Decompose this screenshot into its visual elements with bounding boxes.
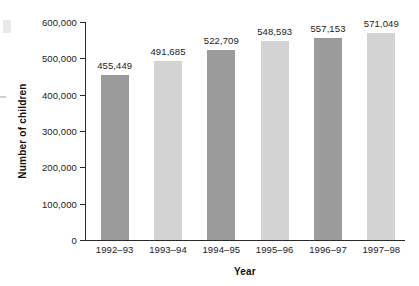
bar-value-label: 557,153 xyxy=(310,23,345,34)
x-tick-label: 1996–97 xyxy=(309,244,347,255)
x-tick-label: 1995–96 xyxy=(256,244,294,255)
bar: 548,593 xyxy=(261,41,289,240)
y-tick-label: 200,000 xyxy=(42,162,77,173)
bar-chart-figure: Number of children Year 0100,000200,0003… xyxy=(0,0,419,286)
y-tick-label: 300,000 xyxy=(42,126,77,137)
y-tick-label: 100,000 xyxy=(42,198,77,209)
bar: 491,685 xyxy=(154,61,182,240)
y-tick-label: 600,000 xyxy=(42,17,77,28)
y-tick-mark xyxy=(80,240,85,241)
bar-value-label: 571,049 xyxy=(364,18,399,29)
x-tick-label: 1997–98 xyxy=(362,244,400,255)
x-tick-label: 1992–93 xyxy=(96,244,134,255)
y-tick-mark xyxy=(80,204,85,205)
x-axis-line xyxy=(85,240,405,241)
bar: 557,153 xyxy=(314,38,342,240)
y-tick-mark xyxy=(80,95,85,96)
bar: 455,449 xyxy=(101,75,129,240)
bar: 522,709 xyxy=(207,50,235,240)
y-tick-mark xyxy=(80,131,85,132)
bar-value-label: 491,685 xyxy=(150,46,185,57)
y-tick-label: 400,000 xyxy=(42,89,77,100)
x-tick-label: 1993–94 xyxy=(149,244,187,255)
y-tick-label: 500,000 xyxy=(42,53,77,64)
y-tick-label: 0 xyxy=(72,235,77,246)
bar-value-label: 548,593 xyxy=(257,26,292,37)
bar: 571,049 xyxy=(367,33,395,240)
plot-area: 0100,000200,000300,000400,000500,000600,… xyxy=(85,22,405,240)
y-tick-mark xyxy=(80,58,85,59)
y-tick-mark xyxy=(80,167,85,168)
x-axis-title: Year xyxy=(234,266,256,277)
bar-value-label: 522,709 xyxy=(204,35,239,46)
scan-artifact xyxy=(3,20,11,33)
y-axis-title: Number of children xyxy=(17,83,28,178)
x-tick-label: 1994–95 xyxy=(202,244,240,255)
scan-artifact xyxy=(0,96,6,98)
y-tick-mark xyxy=(80,22,85,23)
bar-value-label: 455,449 xyxy=(97,60,132,71)
